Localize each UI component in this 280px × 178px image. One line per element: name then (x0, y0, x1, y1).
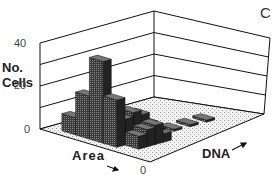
histogram-bar (125, 130, 147, 149)
histogram-bar (103, 94, 125, 148)
chart-canvas (0, 0, 280, 178)
